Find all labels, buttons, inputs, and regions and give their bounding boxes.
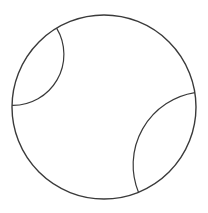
poincare-disk-diagram bbox=[0, 0, 208, 213]
boundary-circle bbox=[12, 15, 196, 199]
geodesic-upper-left-arc bbox=[12, 28, 64, 105]
geodesic-group bbox=[12, 28, 195, 192]
